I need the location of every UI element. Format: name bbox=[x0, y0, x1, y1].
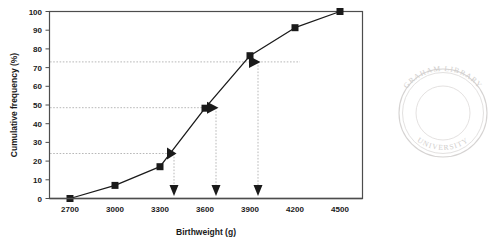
x-tick-label: 4200 bbox=[286, 205, 304, 214]
data-point-3300[interactable] bbox=[157, 163, 164, 170]
cumulative-frequency-chart: 100 90 80 70 60 50 40 30 20 10 0 2700 30… bbox=[0, 0, 495, 252]
stamp-bottom-arc-text: UNIVERSITY bbox=[416, 135, 471, 152]
y-tick-label: 100 bbox=[29, 8, 43, 17]
library-stamp: GRAHAM LIBRARY UNIVERSITY bbox=[399, 64, 487, 157]
x-tick-label: 2700 bbox=[61, 205, 79, 214]
figure-container: 100 90 80 70 60 50 40 30 20 10 0 2700 30… bbox=[0, 0, 495, 252]
x-axis-tick-labels: 2700 3000 3300 3600 3900 4200 4500 bbox=[61, 205, 349, 214]
data-markers-group bbox=[67, 8, 344, 202]
y-tick-label: 80 bbox=[33, 45, 42, 54]
y-tick-label: 90 bbox=[33, 26, 42, 35]
arrow-right-lower-quartile bbox=[167, 148, 177, 160]
y-tick-label: 30 bbox=[33, 138, 42, 147]
x-tick-label: 3300 bbox=[151, 205, 169, 214]
guide-arrowheads-right bbox=[167, 56, 261, 160]
data-point-3600[interactable] bbox=[202, 105, 209, 112]
data-point-4200[interactable] bbox=[292, 24, 299, 31]
y-tick-label: 70 bbox=[33, 64, 42, 73]
x-tick-label: 3600 bbox=[196, 205, 214, 214]
y-tick-label: 40 bbox=[33, 120, 42, 129]
x-tick-label: 3900 bbox=[241, 205, 259, 214]
stamp-middle-ring bbox=[403, 73, 484, 154]
data-point-3000[interactable] bbox=[112, 182, 119, 189]
data-point-4500[interactable] bbox=[337, 8, 344, 15]
y-tick-label: 50 bbox=[33, 101, 42, 110]
y-tick-label: 10 bbox=[33, 176, 42, 185]
stamp-inner-ring bbox=[416, 86, 470, 140]
y-axis-tick-labels: 100 90 80 70 60 50 40 30 20 10 0 bbox=[29, 8, 43, 204]
y-tick-label: 60 bbox=[33, 82, 42, 91]
guide-lines-group bbox=[50, 62, 300, 154]
y-tick-label: 20 bbox=[33, 157, 42, 166]
x-tick-label: 4500 bbox=[331, 205, 349, 214]
arrow-down-upper-quartile bbox=[254, 185, 263, 196]
arrow-down-lower-quartile bbox=[170, 185, 179, 196]
data-point-3900[interactable] bbox=[247, 52, 254, 59]
x-axis-title: Birthweight (g) bbox=[176, 227, 236, 237]
drop-lines-group bbox=[174, 62, 258, 191]
x-tick-label: 3000 bbox=[106, 205, 124, 214]
guide-arrowheads-down bbox=[170, 185, 263, 196]
y-tick-label: 0 bbox=[38, 195, 43, 204]
arrow-down-median bbox=[212, 185, 221, 196]
y-axis-title: Cumulative frequency (%) bbox=[9, 53, 19, 158]
